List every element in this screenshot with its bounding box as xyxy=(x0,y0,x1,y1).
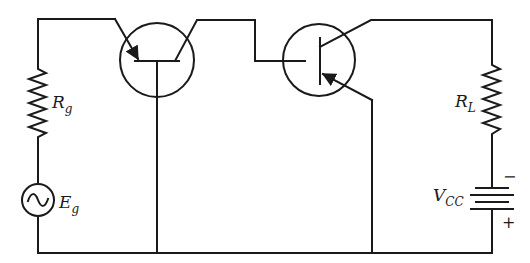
ac-source-eg xyxy=(22,184,54,216)
transistor-2 xyxy=(283,20,492,253)
bottom-common-wire xyxy=(38,212,492,253)
battery-plus-sign: + xyxy=(502,213,515,232)
battery-minus-sign: − xyxy=(503,167,516,186)
sine-wave-icon xyxy=(28,194,48,206)
circuit-diagram: Rg Eg RL xyxy=(0,0,530,263)
rg-label: Rg xyxy=(51,92,73,116)
vcc-label: VCC xyxy=(433,185,464,209)
left-top-wire xyxy=(38,19,115,67)
battery-vcc xyxy=(471,188,513,214)
rl-label: RL xyxy=(454,91,476,115)
transistor-1 xyxy=(115,19,305,253)
load-resistor-rl xyxy=(483,63,500,138)
eg-label: Eg xyxy=(58,192,79,216)
source-resistor-rg xyxy=(29,67,46,140)
